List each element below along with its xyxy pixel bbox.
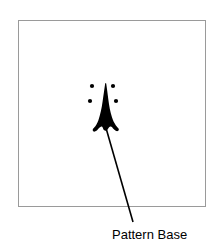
pattern-frame: [19, 21, 206, 207]
pattern-base-caption: Pattern Base: [112, 227, 187, 242]
figure-container: Pattern Base: [0, 0, 222, 249]
pattern-diagram-svg: [0, 0, 222, 249]
dot-upper-left-icon: [90, 84, 94, 88]
dot-lower-right-icon: [114, 99, 118, 103]
dot-upper-right-icon: [111, 84, 115, 88]
dot-lower-left-icon: [88, 99, 92, 103]
